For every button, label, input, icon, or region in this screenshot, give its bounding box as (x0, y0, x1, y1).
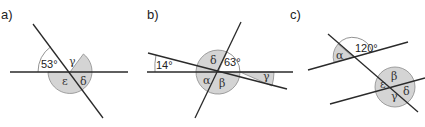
panel-a-delta: δ (80, 75, 87, 88)
panel-c-epsilon: ε (380, 78, 386, 91)
panel-a-gamma: γ (69, 55, 76, 68)
panel-c-gamma: γ (391, 90, 398, 103)
panel-a-transversal-line (33, 24, 103, 118)
panel-c-alpha: α (336, 49, 344, 62)
panel-b: b) 14° 63° δ α β γ (147, 7, 293, 118)
panel-a-given-angle: 53° (41, 58, 58, 70)
panel-c: c) α 120° ε β γ δ (290, 7, 425, 112)
panel-c-label: c) (290, 7, 301, 22)
panel-b-alpha: α (203, 74, 211, 87)
panel-b-gamma: γ (263, 70, 270, 83)
panel-b-given-angle-63: 63° (224, 56, 241, 68)
panel-c-given-angle: 120° (355, 42, 378, 54)
panel-a-epsilon: ε (62, 75, 68, 88)
panel-b-given-angle-14: 14° (156, 59, 173, 71)
angle-exercises-diagram: a) 53° γ ε δ b) 14° 63° δ α β γ c) (0, 0, 425, 127)
panel-c-beta: β (391, 70, 397, 83)
panel-a: a) 53° γ ε δ (1, 7, 128, 118)
panel-b-beta: β (219, 77, 225, 90)
panel-a-label: a) (1, 7, 13, 22)
panel-b-delta: δ (210, 54, 217, 67)
panel-b-label: b) (147, 7, 159, 22)
panel-c-delta: δ (403, 85, 410, 98)
